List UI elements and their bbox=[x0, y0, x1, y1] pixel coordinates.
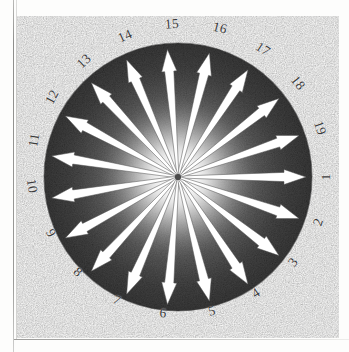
direction-label-6: 6 bbox=[159, 306, 167, 320]
figure-page: 12345678910111213141516171819 bbox=[0, 0, 349, 352]
direction-label-10: 10 bbox=[24, 178, 40, 194]
direction-label-15: 15 bbox=[164, 17, 179, 32]
radial-arrow-diagram-canvas bbox=[0, 0, 349, 352]
center-hub-dot bbox=[175, 174, 181, 180]
radial-arrow-diagram bbox=[0, 0, 349, 352]
direction-label-1: 1 bbox=[319, 173, 333, 180]
direction-label-11: 11 bbox=[26, 132, 42, 148]
